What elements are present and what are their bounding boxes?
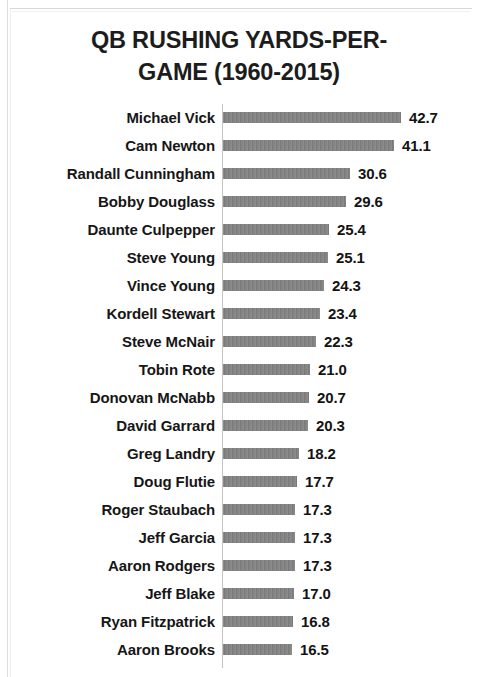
bar-row: Randall Cunningham30.6 (0, 160, 478, 188)
category-label: Michael Vick (14, 104, 215, 132)
category-label: Bobby Douglass (14, 188, 215, 216)
bar (223, 112, 401, 123)
category-label: Tobin Rote (14, 356, 215, 384)
bar (223, 644, 292, 655)
bar-value-label: 24.3 (332, 272, 361, 300)
category-label: Donovan McNabb (14, 384, 215, 412)
bar (223, 196, 346, 207)
bar-row: Vince Young24.3 (0, 272, 478, 300)
category-label: Doug Flutie (14, 468, 215, 496)
bar (223, 532, 295, 543)
bar-row: David Garrard20.3 (0, 412, 478, 440)
bar-row: Bobby Douglass29.6 (0, 188, 478, 216)
category-label: Jeff Blake (14, 580, 215, 608)
bar (223, 448, 299, 459)
bar-value-label: 20.3 (316, 412, 345, 440)
bar-value-label: 29.6 (354, 188, 383, 216)
bar-row: Aaron Rodgers17.3 (0, 552, 478, 580)
bar-row: Steve Young25.1 (0, 244, 478, 272)
bar-row: Donovan McNabb20.7 (0, 384, 478, 412)
category-label: Steve Young (14, 244, 215, 272)
bar-row: Greg Landry18.2 (0, 440, 478, 468)
bar-value-label: 25.4 (337, 216, 366, 244)
bar (223, 224, 329, 235)
bar-row: Daunte Culpepper25.4 (0, 216, 478, 244)
bar-value-label: 17.3 (303, 552, 332, 580)
bar-row: Steve McNair22.3 (0, 328, 478, 356)
bar-value-label: 23.4 (328, 300, 357, 328)
bar (223, 280, 324, 291)
category-label: Daunte Culpepper (14, 216, 215, 244)
bar-row: Roger Staubach17.3 (0, 496, 478, 524)
bar-row: Kordell Stewart23.4 (0, 300, 478, 328)
bar-value-label: 22.3 (324, 328, 353, 356)
bar (223, 560, 295, 571)
bar (223, 364, 310, 375)
category-label: Jeff Garcia (14, 524, 215, 552)
bar (223, 476, 297, 487)
bar-value-label: 25.1 (336, 244, 365, 272)
bar (223, 308, 320, 319)
bar-value-label: 42.7 (409, 104, 438, 132)
category-label: Ryan Fitzpatrick (14, 608, 215, 636)
bar-row: Doug Flutie17.7 (0, 468, 478, 496)
bar (223, 336, 316, 347)
category-label: Aaron Rodgers (14, 552, 215, 580)
bar-value-label: 17.7 (305, 468, 334, 496)
bar-row: Cam Newton41.1 (0, 132, 478, 160)
bar-value-label: 17.0 (302, 580, 331, 608)
category-label: Greg Landry (14, 440, 215, 468)
bar (223, 616, 293, 627)
category-label: David Garrard (14, 412, 215, 440)
bar (223, 420, 308, 431)
bar-value-label: 30.6 (358, 160, 387, 188)
bar-row: Michael Vick42.7 (0, 104, 478, 132)
bar-value-label: 17.3 (303, 524, 332, 552)
bar-row: Jeff Blake17.0 (0, 580, 478, 608)
bar-chart-plot-area: Michael Vick42.7Cam Newton41.1Randall Cu… (0, 0, 478, 677)
bar-value-label: 17.3 (303, 496, 332, 524)
bar-value-label: 18.2 (307, 440, 336, 468)
bar (223, 588, 294, 599)
bar-value-label: 21.0 (318, 356, 347, 384)
category-label: Aaron Brooks (14, 636, 215, 664)
bar (223, 252, 328, 263)
chart-page: QB RUSHING YARDS-PER- GAME (1960-2015) M… (0, 0, 478, 677)
category-label: Cam Newton (14, 132, 215, 160)
bar-row: Aaron Brooks16.5 (0, 636, 478, 664)
bar-value-label: 16.5 (300, 636, 329, 664)
bar-value-label: 16.8 (301, 608, 330, 636)
bar-row: Jeff Garcia17.3 (0, 524, 478, 552)
category-label: Kordell Stewart (14, 300, 215, 328)
bar-row: Ryan Fitzpatrick16.8 (0, 608, 478, 636)
bar-row: Tobin Rote21.0 (0, 356, 478, 384)
category-label: Randall Cunningham (14, 160, 215, 188)
bar (223, 168, 350, 179)
bar-value-label: 20.7 (317, 384, 346, 412)
category-label: Roger Staubach (14, 496, 215, 524)
category-label: Vince Young (14, 272, 215, 300)
category-label: Steve McNair (14, 328, 215, 356)
bar (223, 392, 309, 403)
bar (223, 140, 394, 151)
bar-value-label: 41.1 (402, 132, 431, 160)
bar (223, 504, 295, 515)
